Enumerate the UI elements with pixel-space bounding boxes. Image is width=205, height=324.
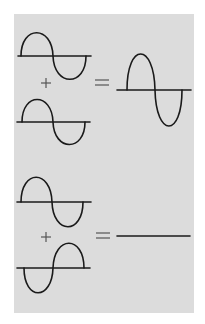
wave-2b xyxy=(17,243,90,293)
wave-1b xyxy=(17,100,90,145)
wave-1-result xyxy=(117,54,191,126)
wave-1a xyxy=(18,33,91,80)
equals-icon xyxy=(95,80,109,85)
wave-2a xyxy=(17,177,91,227)
equals-icon xyxy=(96,233,110,238)
plus-icon xyxy=(41,78,51,88)
interference-diagram xyxy=(0,0,205,324)
plus-icon xyxy=(41,232,51,242)
